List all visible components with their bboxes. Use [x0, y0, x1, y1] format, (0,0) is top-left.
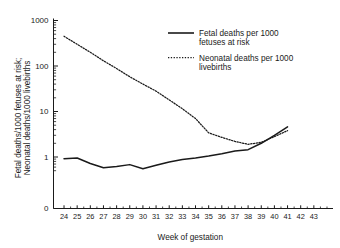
x-tick-label: 33 — [178, 212, 186, 221]
x-tick-label: 26 — [86, 212, 94, 221]
y-tick-label: 1000 — [31, 16, 49, 25]
x-axis-title: Week of gestation — [158, 233, 224, 242]
x-tick-label: 34 — [191, 212, 199, 221]
x-tick-label: 36 — [218, 212, 226, 221]
x-tick-label: 27 — [99, 212, 107, 221]
x-tick-label: 24 — [60, 212, 68, 221]
x-tick-label: 37 — [231, 212, 239, 221]
y-tick-label: 100 — [35, 62, 49, 71]
y-tick-label: 0 — [44, 204, 49, 213]
y-axis-title-line2: Neonatal deaths/1000 livebirths — [23, 61, 32, 176]
legend-label: livebirths — [199, 63, 231, 72]
chart-background — [0, 0, 340, 248]
y-tick-label: 1 — [44, 153, 49, 162]
x-tick-label: 38 — [244, 212, 252, 221]
x-tick-label: 30 — [139, 212, 147, 221]
gestation-mortality-chart: 10001001010 2425262728293031323334353637… — [0, 0, 340, 248]
legend-label: fetuses at risk — [199, 38, 250, 47]
x-tick-label: 32 — [165, 212, 173, 221]
legend-label: Neonatal deaths per 1000 — [199, 54, 294, 63]
x-tick-label: 43 — [310, 212, 318, 221]
x-tick-label: 29 — [126, 212, 134, 221]
x-tick-label: 39 — [257, 212, 265, 221]
y-axis-title-line1: Fetal deaths/1000 fetuses at risk; — [14, 58, 23, 179]
x-tick-label: 35 — [205, 212, 213, 221]
legend-label: Fetal deaths per 1000 — [199, 29, 279, 38]
figure-container: 10001001010 2425262728293031323334353637… — [0, 0, 340, 248]
x-tick-label: 41 — [283, 212, 291, 221]
x-tick-label: 25 — [73, 212, 81, 221]
x-tick-label: 42 — [297, 212, 305, 221]
x-tick-label: 40 — [270, 212, 278, 221]
x-tick-label: 31 — [152, 212, 160, 221]
y-tick-label: 10 — [40, 107, 49, 116]
x-tick-label: 28 — [112, 212, 120, 221]
